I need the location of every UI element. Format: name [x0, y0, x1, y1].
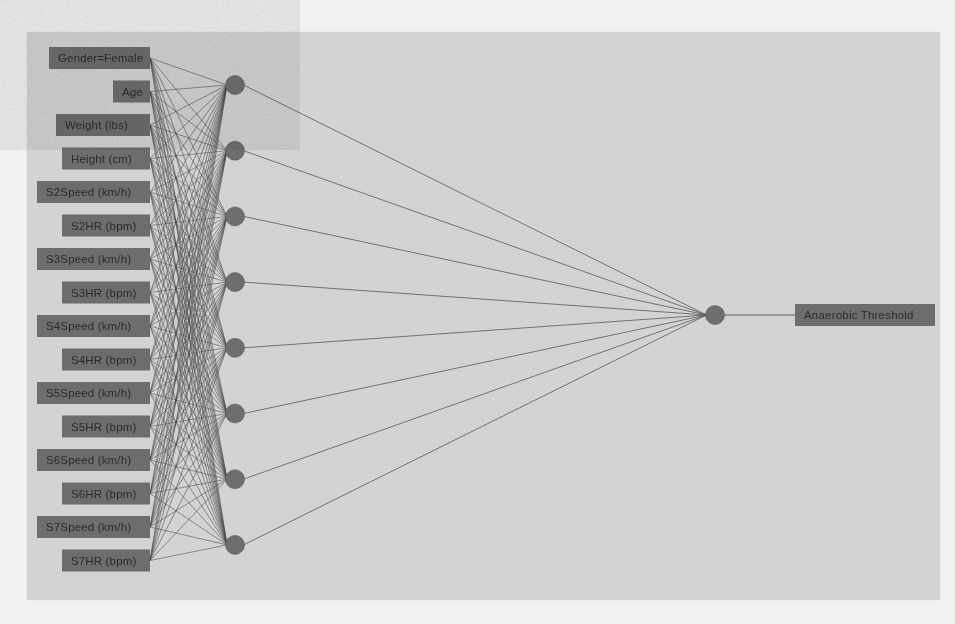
input-label-text: S3HR (bpm) — [71, 287, 136, 299]
edge-input-15-hidden-1 — [150, 151, 227, 561]
output-node-label[interactable]: Anaerobic Threshold — [795, 304, 935, 326]
input-label-text: Age — [122, 86, 143, 98]
edge-hidden-4-output — [244, 315, 707, 348]
input-label-text: S2Speed (km/h) — [46, 186, 131, 198]
hidden-node-1[interactable] — [226, 141, 245, 160]
hidden-node-5[interactable] — [226, 404, 245, 423]
edge-input-1-hidden-0 — [150, 85, 227, 92]
output-node-circle[interactable] — [706, 306, 725, 325]
input-node-labels[interactable]: Gender=FemaleAgeWeight (lbs)Height (cm)S… — [37, 47, 150, 572]
edge-hidden-3-output — [244, 282, 707, 315]
edge-hidden-5-output — [244, 315, 707, 414]
input-node-3[interactable]: Height (cm) — [62, 148, 150, 170]
output-node-0[interactable]: Anaerobic Threshold — [795, 304, 935, 326]
input-label-text: S4Speed (km/h) — [46, 320, 131, 332]
input-node-0[interactable]: Gender=Female — [49, 47, 150, 69]
hidden-node-4[interactable] — [226, 338, 245, 357]
hidden-node-6[interactable] — [226, 470, 245, 489]
input-node-1[interactable]: Age — [113, 81, 150, 103]
input-node-4[interactable]: S2Speed (km/h) — [37, 181, 150, 203]
input-label-text: S7Speed (km/h) — [46, 521, 131, 533]
input-label-text: S6HR (bpm) — [71, 488, 136, 500]
edge-hidden-6-output — [244, 315, 707, 479]
input-to-hidden-edges — [150, 58, 227, 561]
input-label-text: S3Speed (km/h) — [46, 253, 131, 265]
input-label-text: S6Speed (km/h) — [46, 454, 131, 466]
edge-input-14-hidden-7 — [150, 527, 227, 545]
hidden-to-output-edges — [244, 85, 707, 545]
input-node-8[interactable]: S4Speed (km/h) — [37, 315, 150, 337]
output-node[interactable] — [706, 306, 725, 325]
edge-input-7-hidden-7 — [150, 293, 227, 545]
input-label-text: S5Speed (km/h) — [46, 387, 131, 399]
input-node-15[interactable]: S7HR (bpm) — [62, 550, 150, 572]
input-label-text: S5HR (bpm) — [71, 421, 136, 433]
input-node-10[interactable]: S5Speed (km/h) — [37, 382, 150, 404]
output-label-text: Anaerobic Threshold — [804, 309, 914, 321]
input-label-text: Height (cm) — [71, 153, 132, 165]
hidden-node-0[interactable] — [226, 76, 245, 95]
hidden-node-2[interactable] — [226, 207, 245, 226]
input-node-9[interactable]: S4HR (bpm) — [62, 349, 150, 371]
edge-hidden-1-output — [244, 151, 707, 315]
input-node-2[interactable]: Weight (lbs) — [56, 114, 150, 136]
hidden-node-7[interactable] — [226, 535, 245, 554]
input-label-text: Weight (lbs) — [65, 119, 128, 131]
input-label-text: S4HR (bpm) — [71, 354, 136, 366]
input-node-12[interactable]: S6Speed (km/h) — [37, 449, 150, 471]
hidden-node-3[interactable] — [226, 273, 245, 292]
edge-input-6-hidden-5 — [150, 259, 227, 414]
neural-network-screenshot: Gender=FemaleAgeWeight (lbs)Height (cm)S… — [0, 0, 955, 624]
input-label-text: S2HR (bpm) — [71, 220, 136, 232]
input-label-text: Gender=Female — [58, 52, 143, 64]
edge-hidden-2-output — [244, 216, 707, 315]
input-node-5[interactable]: S2HR (bpm) — [62, 215, 150, 237]
edge-hidden-7-output — [244, 315, 707, 545]
input-node-11[interactable]: S5HR (bpm) — [62, 416, 150, 438]
input-node-14[interactable]: S7Speed (km/h) — [37, 516, 150, 538]
edge-input-15-hidden-4 — [150, 348, 227, 561]
input-node-6[interactable]: S3Speed (km/h) — [37, 248, 150, 270]
edge-hidden-0-output — [244, 85, 707, 315]
hidden-nodes[interactable] — [226, 76, 245, 555]
edge-input-15-hidden-7 — [150, 545, 227, 561]
input-node-13[interactable]: S6HR (bpm) — [62, 483, 150, 505]
input-node-7[interactable]: S3HR (bpm) — [62, 282, 150, 304]
neural-network-diagram[interactable]: Gender=FemaleAgeWeight (lbs)Height (cm)S… — [0, 0, 955, 624]
input-label-text: S7HR (bpm) — [71, 555, 136, 567]
